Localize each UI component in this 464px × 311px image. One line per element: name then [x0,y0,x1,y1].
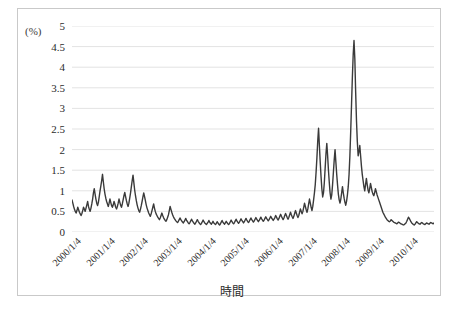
chart-figure: (%) 00.511.522.533.544.55 2000/1/42001/1… [0,0,464,311]
plot-area [72,26,434,232]
x-axis-tick: 2004/1/4 [186,236,218,268]
y-axis-tick: 5 [60,21,66,32]
x-axis-tick: 2010/1/4 [388,236,420,268]
y-axis-tick: 1.5 [51,165,65,176]
x-axis-tick: 2001/1/4 [85,236,117,268]
line-chart-svg [72,26,434,232]
y-axis-tick: 0 [60,227,66,238]
x-axis-tick: 2007/1/4 [287,236,319,268]
x-axis-tick-labels: 2000/1/42001/1/42002/1/42003/1/42004/1/4… [72,232,434,282]
y-axis-tick: 4 [60,62,66,73]
x-axis-tick: 2005/1/4 [219,236,251,268]
x-axis-tick: 2002/1/4 [118,236,150,268]
x-axis-tick: 2003/1/4 [152,236,184,268]
y-axis-tick: 3 [60,103,66,114]
y-axis-tick: 1 [60,185,66,196]
y-axis-tick: 4.5 [51,41,65,52]
y-axis-tick: 0.5 [51,206,65,217]
y-axis-tick: 2.5 [51,124,65,135]
x-axis-title: 時間 [0,286,464,298]
x-axis-tick: 2009/1/4 [354,236,386,268]
x-axis-tick: 2008/1/4 [320,236,352,268]
x-axis-tick: 2006/1/4 [253,236,285,268]
y-axis-tick-labels: 00.511.522.533.544.55 [17,26,69,232]
y-axis-tick: 3.5 [51,82,65,93]
series-line-spread [72,40,434,225]
y-axis-tick: 2 [60,144,66,155]
